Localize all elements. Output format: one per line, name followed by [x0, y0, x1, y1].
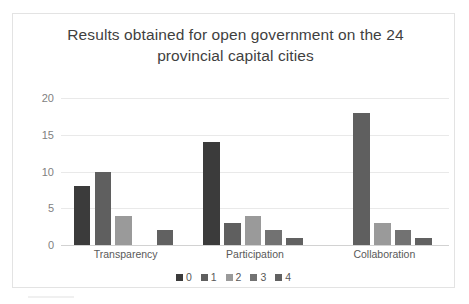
y-tick-label: 10	[42, 166, 54, 178]
legend-item[interactable]: 4	[275, 272, 291, 282]
legend-item[interactable]: 1	[201, 272, 217, 282]
plot-area: 05101520 TransparencyParticipationCollab…	[61, 98, 449, 245]
legend-label: 0	[186, 272, 192, 282]
chart-title-line-1: Results obtained for open government on …	[43, 24, 428, 45]
bar-slot	[245, 98, 262, 245]
bar-slot	[415, 98, 432, 245]
bar	[74, 186, 91, 245]
legend-label: 3	[260, 272, 266, 282]
bar	[203, 142, 220, 245]
bar-slot	[203, 98, 220, 245]
y-tick-label: 5	[48, 202, 54, 214]
y-tick-label: 20	[42, 92, 54, 104]
bar-group	[320, 98, 449, 245]
bar	[95, 172, 112, 246]
chart-title: Results obtained for open government on …	[43, 24, 428, 66]
bar-slot	[136, 98, 153, 245]
bar	[265, 230, 282, 245]
bar	[395, 230, 412, 245]
bar-slot	[265, 98, 282, 245]
x-axis-line	[61, 245, 449, 246]
bar	[157, 230, 174, 245]
legend-swatch-icon	[250, 274, 257, 281]
legend-swatch-icon	[226, 274, 233, 281]
y-tick-label: 15	[42, 129, 54, 141]
legend-item[interactable]: 0	[176, 272, 192, 282]
legend-swatch-icon	[275, 274, 282, 281]
bar	[286, 238, 303, 245]
chart-legend: 01234	[13, 272, 454, 282]
legend-label: 1	[211, 272, 217, 282]
bar	[245, 216, 262, 245]
bar-slot	[395, 98, 412, 245]
bar-slot	[157, 98, 174, 245]
bar-slot	[374, 98, 391, 245]
legend-swatch-icon	[176, 274, 183, 281]
chart-title-line-2: provincial capital cities	[43, 45, 428, 66]
category-label: Transparency	[61, 248, 190, 260]
legend-item[interactable]: 3	[250, 272, 266, 282]
chart-container: Results obtained for open government on …	[12, 13, 455, 288]
legend-label: 2	[236, 272, 242, 282]
scan-artifact	[28, 296, 74, 298]
bar	[415, 238, 432, 245]
bar-slot	[115, 98, 132, 245]
bar	[353, 113, 370, 245]
bar-slot	[353, 98, 370, 245]
legend-swatch-icon	[201, 274, 208, 281]
bar	[115, 216, 132, 245]
y-tick-label: 0	[48, 239, 54, 251]
bar-slot	[95, 98, 112, 245]
legend-label: 4	[285, 272, 291, 282]
bar-slot	[224, 98, 241, 245]
legend-item[interactable]: 2	[226, 272, 242, 282]
bar	[224, 223, 241, 245]
bar	[374, 223, 391, 245]
bar-slot	[74, 98, 91, 245]
category-label: Collaboration	[320, 248, 449, 260]
category-label: Participation	[190, 248, 319, 260]
bar-slot	[286, 98, 303, 245]
bar-slot	[333, 98, 350, 245]
bar-group	[61, 98, 190, 245]
bar-group	[190, 98, 319, 245]
